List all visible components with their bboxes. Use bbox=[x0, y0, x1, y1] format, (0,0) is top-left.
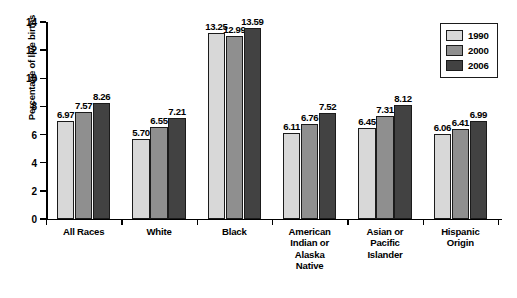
y-axis-tick bbox=[40, 190, 46, 191]
bar[interactable]: 13.25 bbox=[208, 33, 226, 219]
chart-legend: 199020002006 bbox=[440, 23, 498, 78]
bar-value-label: 13.59 bbox=[241, 16, 263, 27]
y-axis-tick-label: 6 bbox=[31, 129, 37, 140]
plot-area: 024681012146.977.578.265.706.557.2113.25… bbox=[46, 22, 498, 219]
y-axis-tick bbox=[40, 78, 46, 79]
x-axis-category-label: Asian orPacificIslander bbox=[347, 226, 422, 260]
bar[interactable]: 6.99 bbox=[470, 121, 488, 219]
y-axis-tick bbox=[40, 162, 46, 163]
y-axis-tick-label: 4 bbox=[31, 157, 37, 168]
y-axis-tick bbox=[40, 49, 46, 50]
y-axis-tick-label: 10 bbox=[26, 73, 37, 84]
legend-swatch bbox=[446, 60, 463, 71]
bar[interactable]: 6.41 bbox=[452, 129, 470, 219]
x-axis-tick bbox=[347, 219, 348, 225]
bar-value-label: 7.21 bbox=[168, 106, 185, 117]
x-axis-tick bbox=[197, 219, 198, 225]
x-axis-tick bbox=[498, 219, 499, 225]
bar-value-label: 6.11 bbox=[283, 121, 300, 132]
y-axis-tick bbox=[40, 134, 46, 135]
bar-value-label: 8.26 bbox=[93, 91, 110, 102]
bar-value-label: 7.57 bbox=[75, 100, 92, 111]
bar[interactable]: 6.97 bbox=[57, 121, 75, 219]
x-axis-tick bbox=[423, 219, 424, 225]
bar-value-label: 6.06 bbox=[434, 122, 451, 133]
x-axis-category-label: Black bbox=[197, 226, 272, 237]
x-axis-tick bbox=[46, 219, 47, 225]
bar-value-label: 5.70 bbox=[132, 127, 149, 138]
legend-label: 1990 bbox=[468, 30, 489, 41]
x-axis-category-label: All Races bbox=[46, 226, 121, 237]
bar[interactable]: 7.21 bbox=[168, 118, 186, 219]
y-axis-tick-label: 2 bbox=[31, 185, 37, 196]
bar[interactable]: 7.52 bbox=[319, 113, 337, 219]
bar[interactable]: 6.06 bbox=[434, 134, 452, 219]
legend-item[interactable]: 2000 bbox=[446, 43, 497, 58]
legend-label: 2006 bbox=[468, 60, 489, 71]
y-axis-tick bbox=[40, 106, 46, 107]
x-axis-category-label: AmericanIndian orAlaskaNative bbox=[272, 226, 347, 272]
legend-swatch bbox=[446, 30, 463, 41]
legend-item[interactable]: 1990 bbox=[446, 28, 497, 43]
legend-item[interactable]: 2006 bbox=[446, 58, 497, 73]
y-axis-tick-label: 12 bbox=[26, 45, 37, 56]
bar-value-label: 6.99 bbox=[470, 109, 487, 120]
x-axis-category-label: HispanicOrigin bbox=[423, 226, 498, 249]
bar-value-label: 8.12 bbox=[394, 93, 411, 104]
bar-value-label: 6.41 bbox=[452, 117, 469, 128]
y-axis-tick-label: 14 bbox=[26, 17, 37, 28]
bar[interactable]: 6.76 bbox=[301, 124, 319, 219]
bar[interactable]: 12.99 bbox=[226, 36, 244, 219]
bar[interactable]: 7.57 bbox=[75, 112, 93, 219]
bar-group: 13.2512.9913.59 bbox=[208, 22, 262, 219]
bar-group: 5.706.557.21 bbox=[132, 22, 186, 219]
bar-value-label: 7.31 bbox=[376, 104, 393, 115]
x-axis-category-label: White bbox=[121, 226, 196, 237]
bar-value-label: 6.45 bbox=[358, 116, 375, 127]
bar[interactable]: 7.31 bbox=[376, 116, 394, 219]
bar-chart: Percentage of live births 024681012146.9… bbox=[0, 0, 517, 298]
y-axis-tick bbox=[40, 21, 46, 22]
bar-value-label: 7.52 bbox=[319, 101, 336, 112]
legend-label: 2000 bbox=[468, 45, 489, 56]
x-axis-tick bbox=[121, 219, 122, 225]
bar[interactable]: 6.55 bbox=[150, 127, 168, 219]
legend-swatch bbox=[446, 45, 463, 56]
bar[interactable]: 5.70 bbox=[132, 139, 150, 219]
bar[interactable]: 13.59 bbox=[244, 28, 262, 219]
bar-value-label: 6.55 bbox=[150, 115, 167, 126]
bar-group: 6.116.767.52 bbox=[283, 22, 337, 219]
y-axis-tick-label: 0 bbox=[31, 214, 37, 225]
bar[interactable]: 8.26 bbox=[93, 103, 111, 219]
bar[interactable]: 8.12 bbox=[394, 105, 412, 219]
x-axis-tick bbox=[272, 219, 273, 225]
bar-group: 6.457.318.12 bbox=[358, 22, 412, 219]
bar[interactable]: 6.45 bbox=[358, 128, 376, 219]
bar[interactable]: 6.11 bbox=[283, 133, 301, 219]
bar-group: 6.977.578.26 bbox=[57, 22, 111, 219]
bar-value-label: 6.76 bbox=[301, 112, 318, 123]
y-axis-tick-label: 8 bbox=[31, 101, 37, 112]
bar-value-label: 6.97 bbox=[57, 109, 74, 120]
